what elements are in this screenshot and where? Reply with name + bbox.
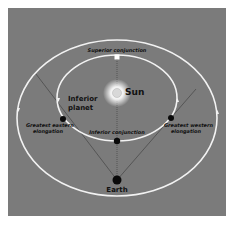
greatest-western-label-line2: elongation <box>164 129 208 134</box>
earth-marker <box>113 176 122 185</box>
greatest-western-elongation-marker <box>168 115 174 121</box>
inferior-planet-label-line1: Inferior <box>68 96 98 103</box>
sun-label: Sun <box>125 88 144 97</box>
inferior-conjunction-label: Inferior conjunction <box>87 130 147 135</box>
superior-conjunction-marker <box>115 55 120 60</box>
greatest-eastern-label-line2: elongation <box>26 129 70 134</box>
earth-label: Earth <box>97 187 137 194</box>
greatest-eastern-elongation-label: Greatest eastern elongation <box>26 123 70 134</box>
inferior-planet-label: Inferior planet <box>68 96 98 112</box>
superior-conjunction-label: Superior conjunction <box>87 48 147 53</box>
inferior-planet-label-line2: planet <box>68 105 98 112</box>
sun-icon <box>113 89 122 98</box>
inferior-conjunction-marker <box>114 138 120 144</box>
greatest-western-elongation-label: Greatest western elongation <box>164 123 208 134</box>
